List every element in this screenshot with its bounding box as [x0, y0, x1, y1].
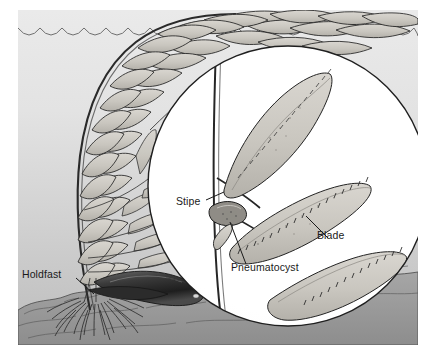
- label-holdfast: Holdfast: [22, 268, 61, 280]
- kelp-illustration: [18, 10, 418, 345]
- kelp-anatomy-figure: Holdfast Stipe Pneumatocyst Blade: [0, 0, 436, 357]
- inset-pneumatocyst: [209, 202, 247, 226]
- label-blade: Blade: [317, 229, 344, 241]
- label-pneumatocyst: Pneumatocyst: [231, 261, 299, 273]
- label-stipe: Stipe: [176, 195, 200, 207]
- illustration-plate: [18, 10, 418, 345]
